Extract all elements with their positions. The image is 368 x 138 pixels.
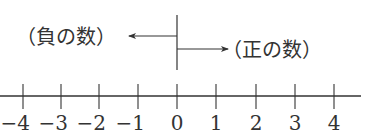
tick-label: −4 (1, 111, 30, 135)
tick-label: 1 (210, 111, 223, 135)
tick-label: 2 (250, 111, 263, 135)
negative-numbers-label: （負の数） (16, 25, 116, 49)
tick-labels: −4−3−2−101234 (1, 111, 341, 135)
tick-label: −1 (116, 111, 145, 135)
tick-label: −3 (39, 111, 68, 135)
positive-numbers-label: （正の数） (222, 38, 322, 62)
tick-label: 3 (289, 111, 302, 135)
tick-label: 0 (171, 111, 184, 135)
number-line-diagram: （負の数） （正の数） −4−3−2−101234 (0, 0, 368, 138)
tick-label: −2 (77, 111, 106, 135)
tick-label: 4 (328, 111, 341, 135)
